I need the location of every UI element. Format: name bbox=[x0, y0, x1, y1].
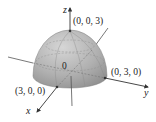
y-intercept-label: (0, 3, 0) bbox=[111, 67, 141, 78]
x-axis-label: x bbox=[25, 105, 31, 116]
point-y-intercept bbox=[104, 77, 107, 80]
hemisphere-diagram: z x y (0, 0, 3) (3, 0, 0) (0, 3, 0) 0 bbox=[0, 0, 156, 122]
y-axis-negative bbox=[8, 57, 33, 63]
origin-label: 0 bbox=[62, 61, 67, 71]
y-axis bbox=[105, 78, 148, 87]
point-top bbox=[69, 30, 72, 33]
point-x-intercept bbox=[56, 86, 59, 89]
top-point-label: (0, 0, 3) bbox=[73, 16, 103, 27]
x-intercept-label: (3, 0, 0) bbox=[15, 86, 45, 97]
z-axis-label: z bbox=[62, 4, 67, 15]
y-axis-label: y bbox=[143, 87, 149, 98]
hemisphere-surface bbox=[33, 30, 107, 88]
